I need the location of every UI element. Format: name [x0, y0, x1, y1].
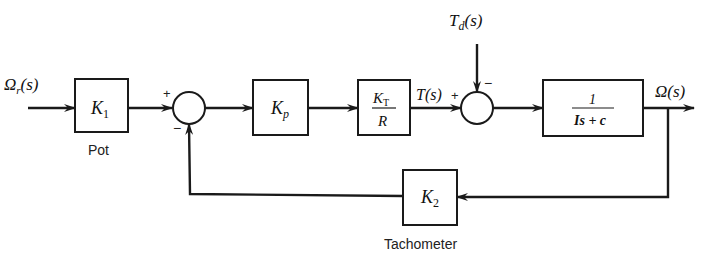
tachometer-caption: Tachometer: [384, 236, 457, 252]
pot-caption: Pot: [88, 142, 109, 158]
torque-signal-label: T(s): [416, 86, 442, 104]
output-signal-label: Ω(s): [655, 82, 686, 101]
kt-over-r-block: KT R: [358, 80, 410, 135]
svg-text:R: R: [377, 113, 387, 129]
disturbance-signal-label: Td(s): [449, 11, 483, 33]
summing-junction-2: + −: [451, 75, 493, 124]
input-signal-label: Ωr(s): [4, 75, 39, 96]
k1-pot-block: K1 Pot: [75, 79, 128, 158]
svg-text:+: +: [163, 86, 171, 101]
kp-block: Kp: [253, 80, 308, 135]
plant-block: 1 Is + c: [543, 80, 643, 136]
summing-junction-1: + −: [163, 86, 205, 136]
svg-text:Is + c: Is + c: [573, 113, 607, 128]
svg-text:−: −: [484, 75, 492, 91]
svg-text:−: −: [173, 120, 181, 136]
svg-text:+: +: [451, 88, 459, 103]
svg-text:1: 1: [589, 92, 596, 107]
block-diagram: Ωr(s) K1 Pot + − Kp KT R T(s) Td(s) + −: [0, 0, 716, 259]
k2-tachometer-block: K2 Tachometer: [384, 170, 457, 252]
